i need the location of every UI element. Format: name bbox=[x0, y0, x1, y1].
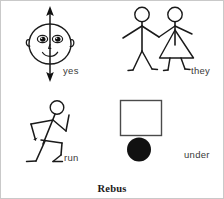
rebus-panel-under bbox=[117, 97, 183, 167]
figure-caption: Rebus bbox=[1, 183, 223, 194]
rebus-label-yes: yes bbox=[63, 65, 79, 76]
filled-circle-shape bbox=[127, 138, 151, 162]
rebus-label-under: under bbox=[184, 149, 210, 160]
rebus-label-run: run bbox=[64, 152, 79, 163]
square-above-filled-circle-icon bbox=[117, 97, 183, 167]
square-shape bbox=[121, 101, 162, 136]
rebus-label-they: they bbox=[191, 65, 210, 76]
rebus-figure: yes bbox=[0, 0, 224, 199]
